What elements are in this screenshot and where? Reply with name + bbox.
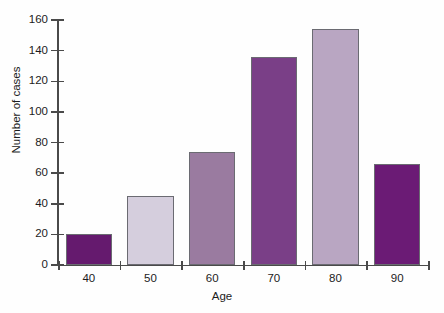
bar-age-70 [251, 57, 297, 265]
y-tick-label-0: 0 [0, 259, 48, 271]
x-tick-end [428, 261, 430, 270]
y-tick-label-160: 160 [0, 14, 48, 26]
x-tick-label-70: 70 [254, 273, 294, 285]
bars-container [58, 20, 428, 265]
y-tick-label-140: 140 [0, 45, 48, 57]
y-tick-label-100: 100 [0, 106, 48, 118]
bar-age-40 [66, 234, 112, 265]
bar-age-60 [189, 152, 235, 265]
bar-age-90 [374, 164, 420, 265]
x-tick-label-80: 80 [316, 273, 356, 285]
y-tick-label-60: 60 [0, 167, 48, 179]
x-tick-label-40: 40 [69, 273, 109, 285]
x-tick-label-90: 90 [377, 273, 417, 285]
bar-chart: 020406080100120140160 405060708090 Age N… [0, 0, 444, 313]
bar-age-50 [127, 196, 173, 265]
x-tick-label-60: 60 [192, 273, 232, 285]
x-axis-title: Age [0, 290, 444, 302]
bar-age-80 [312, 29, 358, 265]
y-axis-title: Number of cases [10, 50, 22, 170]
y-tick-label-120: 120 [0, 75, 48, 87]
y-tick-label-80: 80 [0, 137, 48, 149]
x-tick-label-50: 50 [131, 273, 171, 285]
y-tick-label-40: 40 [0, 198, 48, 210]
y-tick-label-20: 20 [0, 228, 48, 240]
